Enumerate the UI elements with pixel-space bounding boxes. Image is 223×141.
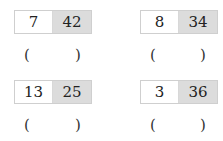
number-pair-box: 7 42 [14, 10, 92, 34]
answer-open-paren: ( [24, 116, 30, 134]
left-number: 13 [15, 81, 53, 103]
right-number: 42 [53, 11, 91, 33]
answer-close-paren: ) [200, 46, 206, 64]
number-pair-box: 8 34 [140, 10, 218, 34]
answer-close-paren: ) [75, 116, 81, 134]
answer-close-paren: ) [200, 116, 206, 134]
answer-open-paren: ( [24, 46, 30, 64]
answer-close-paren: ) [75, 46, 81, 64]
right-number: 25 [53, 81, 91, 103]
answer-open-paren: ( [150, 116, 156, 134]
left-number: 3 [141, 81, 179, 103]
number-pair-box: 3 36 [140, 80, 218, 104]
left-number: 8 [141, 11, 179, 33]
left-number: 7 [15, 11, 53, 33]
answer-open-paren: ( [150, 46, 156, 64]
number-pair-box: 13 25 [14, 80, 92, 104]
right-number: 36 [179, 81, 217, 103]
right-number: 34 [179, 11, 217, 33]
